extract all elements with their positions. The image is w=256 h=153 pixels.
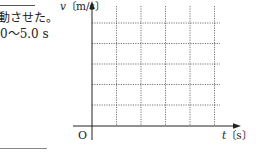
- axes: [73, 1, 241, 140]
- origin-label: O: [78, 130, 87, 141]
- velocity-time-graph: [0, 0, 256, 153]
- y-axis-unit: 〔m/s〕: [66, 0, 105, 12]
- x-axis-arrow-icon: [233, 123, 241, 128]
- x-axis-label: t〔s〕: [222, 130, 252, 141]
- y-axis-label: v〔m/s〕: [60, 1, 105, 12]
- grid: [92, 6, 220, 126]
- x-axis-unit: 〔s〕: [226, 129, 251, 141]
